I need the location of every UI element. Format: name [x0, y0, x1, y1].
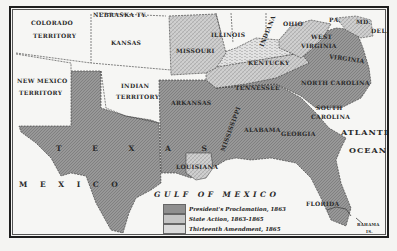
label-md: MD. — [356, 19, 371, 25]
label-bahama: BAHAMA — [357, 223, 380, 227]
label-mexico: M E X I C O — [19, 181, 123, 189]
label-kansas: KANSAS — [111, 40, 141, 46]
label-gulf-of-mexico: GULF OF MEXICO — [154, 191, 279, 199]
label-nebraska: NEBRASKA TY. — [93, 12, 147, 18]
label-tennessee: TENNESSEE — [235, 85, 280, 91]
label-arkansas: ARKANSAS — [171, 100, 211, 106]
label-alabama: ALABAMA — [244, 127, 281, 133]
label-louisiana: LOUISIANA — [176, 164, 218, 170]
swatch-light-icon — [163, 224, 186, 234]
label-bahama-is: IS. — [366, 230, 373, 234]
label-colorado-territory: TERRITORY — [33, 33, 76, 39]
label-indian: INDIAN — [121, 83, 149, 89]
label-new-mexico-territory: TERRITORY — [19, 90, 62, 96]
label-pa: PA. — [329, 17, 341, 23]
legend-item-proclamation: President's Proclamation, 1863 — [163, 204, 286, 214]
legend-item-thirteenth-amendment: Thirteenth Amendment, 1865 — [163, 224, 286, 234]
label-ohio: OHIO — [283, 21, 303, 27]
label-del: DEL. — [371, 28, 388, 34]
legend-item-state-action: State Action, 1863-1865 — [163, 214, 286, 224]
emancipation-map: COLORADO TERRITORY NEBRASKA TY. KANSAS M… — [9, 6, 389, 238]
label-illinois: ILLINOIS — [211, 32, 245, 38]
label-atlantic: ATLANTIC — [341, 128, 389, 136]
label-indian-territory: TERRITORY — [116, 94, 159, 100]
label-west-virginia: VIRGINIA — [301, 43, 337, 49]
label-ocean: OCEAN — [349, 146, 387, 154]
label-north-carolina: NORTH CAROLINA — [301, 80, 370, 86]
missouri-region — [169, 14, 226, 75]
label-texas: T E X A S — [56, 145, 221, 153]
label-south: SOUTH — [316, 105, 342, 111]
label-kentucky: KENTUCKY — [248, 60, 289, 66]
label-florida: FLORIDA — [306, 201, 339, 207]
label-new-mexico: NEW MEXICO — [17, 78, 68, 84]
label-colorado: COLORADO — [31, 20, 73, 26]
label-missouri: MISSOURI — [176, 48, 215, 54]
map-legend: President's Proclamation, 1863 State Act… — [163, 204, 286, 234]
label-georgia: GEORGIA — [281, 131, 316, 137]
label-south-carolina: CAROLINA — [311, 114, 350, 120]
swatch-dark-icon — [163, 204, 186, 214]
swatch-medium-icon — [163, 214, 186, 224]
label-west: WEST — [311, 34, 332, 40]
